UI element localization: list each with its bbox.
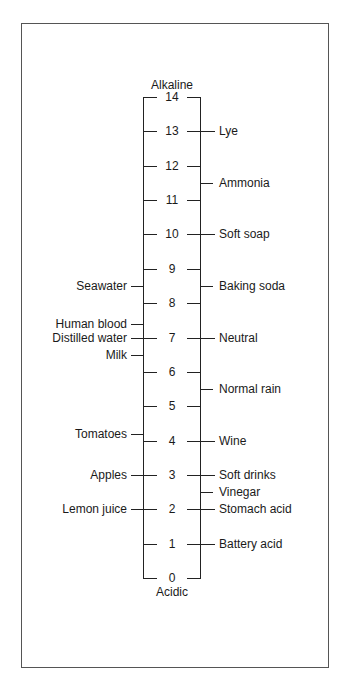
pointer-line [201, 234, 215, 235]
right-label: Lye [219, 125, 238, 137]
pointer-line [201, 509, 215, 510]
right-label: Soft soap [219, 228, 270, 240]
left-label: Seawater [76, 280, 127, 292]
tick-label: 13 [157, 125, 187, 137]
tick-label: 10 [157, 228, 187, 240]
pointer-line [131, 475, 143, 476]
pointer-line [131, 509, 143, 510]
tick-label: 12 [157, 160, 187, 172]
pointer-line [131, 286, 143, 287]
pointer-line [201, 544, 215, 545]
pointer-line [201, 131, 215, 132]
pointer-line [201, 183, 213, 184]
pointer-line [131, 355, 143, 356]
pointer-line [131, 324, 143, 325]
right-label: Wine [219, 435, 246, 447]
right-label: Stomach acid [219, 503, 292, 515]
right-label: Normal rain [219, 383, 281, 395]
tick-label: 11 [157, 194, 187, 206]
right-label: Soft drinks [219, 469, 276, 481]
tick-label: 6 [157, 366, 187, 378]
left-label: Lemon juice [62, 503, 127, 515]
tick-label: 0 [157, 572, 187, 584]
right-label: Vinegar [219, 486, 260, 498]
tick-label: 9 [157, 263, 187, 275]
right-label: Ammonia [219, 177, 270, 189]
right-label: Neutral [219, 332, 258, 344]
left-label: Distilled water [52, 332, 127, 344]
tick-label: 5 [157, 400, 187, 412]
pointer-line [201, 389, 213, 390]
left-label: Human blood [56, 318, 127, 330]
tick-label: 14 [157, 91, 187, 103]
tick-label: 3 [157, 469, 187, 481]
pointer-line [201, 475, 215, 476]
left-label: Apples [90, 469, 127, 481]
left-label: Tomatoes [75, 428, 127, 440]
pointer-line [201, 286, 213, 287]
tick-label: 4 [157, 435, 187, 447]
right-label: Battery acid [219, 538, 282, 550]
pointer-line [131, 338, 143, 339]
tick-label: 8 [157, 297, 187, 309]
tick-label: 1 [157, 538, 187, 550]
pointer-line [201, 338, 215, 339]
right-label: Baking soda [219, 280, 285, 292]
tick-label: 2 [157, 503, 187, 515]
left-label: Milk [106, 349, 127, 361]
acidic-label: Acidic [132, 585, 212, 599]
pointer-line [201, 492, 213, 493]
pointer-line [131, 434, 143, 435]
pointer-line [201, 441, 215, 442]
tick-label: 7 [157, 332, 187, 344]
